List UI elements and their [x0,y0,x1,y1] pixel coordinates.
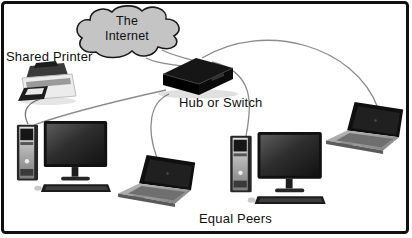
shared-printer-label: Shared Printer [6,49,93,64]
diagram-artwork [0,0,412,238]
cable-hub-to-laptop-center [151,94,169,158]
cable-cloud-to-hub-2 [162,50,195,61]
hub-or-switch-label: Hub or Switch [179,95,263,110]
printer-device [18,61,76,105]
internet-label-line1: The [88,14,166,29]
desktop-pc-right [230,132,325,204]
desktop-pc-left [17,121,111,192]
laptop-right [326,102,403,154]
network-diagram: The Internet Shared Printer Hub or Switc… [0,0,412,238]
diagram-border [3,3,408,233]
laptop-center [118,155,195,207]
internet-label-line2: Internet [88,29,166,44]
cable-cloud-to-hub-1 [146,58,181,66]
equal-peers-label: Equal Peers [199,211,272,226]
internet-label: The Internet [88,14,166,44]
